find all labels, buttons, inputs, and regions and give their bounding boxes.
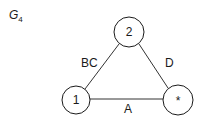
graph-title-main: G (9, 8, 18, 22)
graph-title-subscript: 4 (18, 15, 23, 24)
edge-label-bc: BC (81, 56, 98, 70)
node-1-label: 1 (73, 93, 80, 107)
graph-title: G4 (9, 8, 23, 24)
edge-label-a: A (124, 102, 132, 116)
edge-2-star (139, 44, 168, 88)
edge-label-d: D (165, 56, 174, 70)
node-star-label: * (176, 94, 181, 108)
graph-diagram: G4 BC D A 2 1 * (0, 0, 204, 120)
node-2-label: 2 (126, 25, 133, 39)
